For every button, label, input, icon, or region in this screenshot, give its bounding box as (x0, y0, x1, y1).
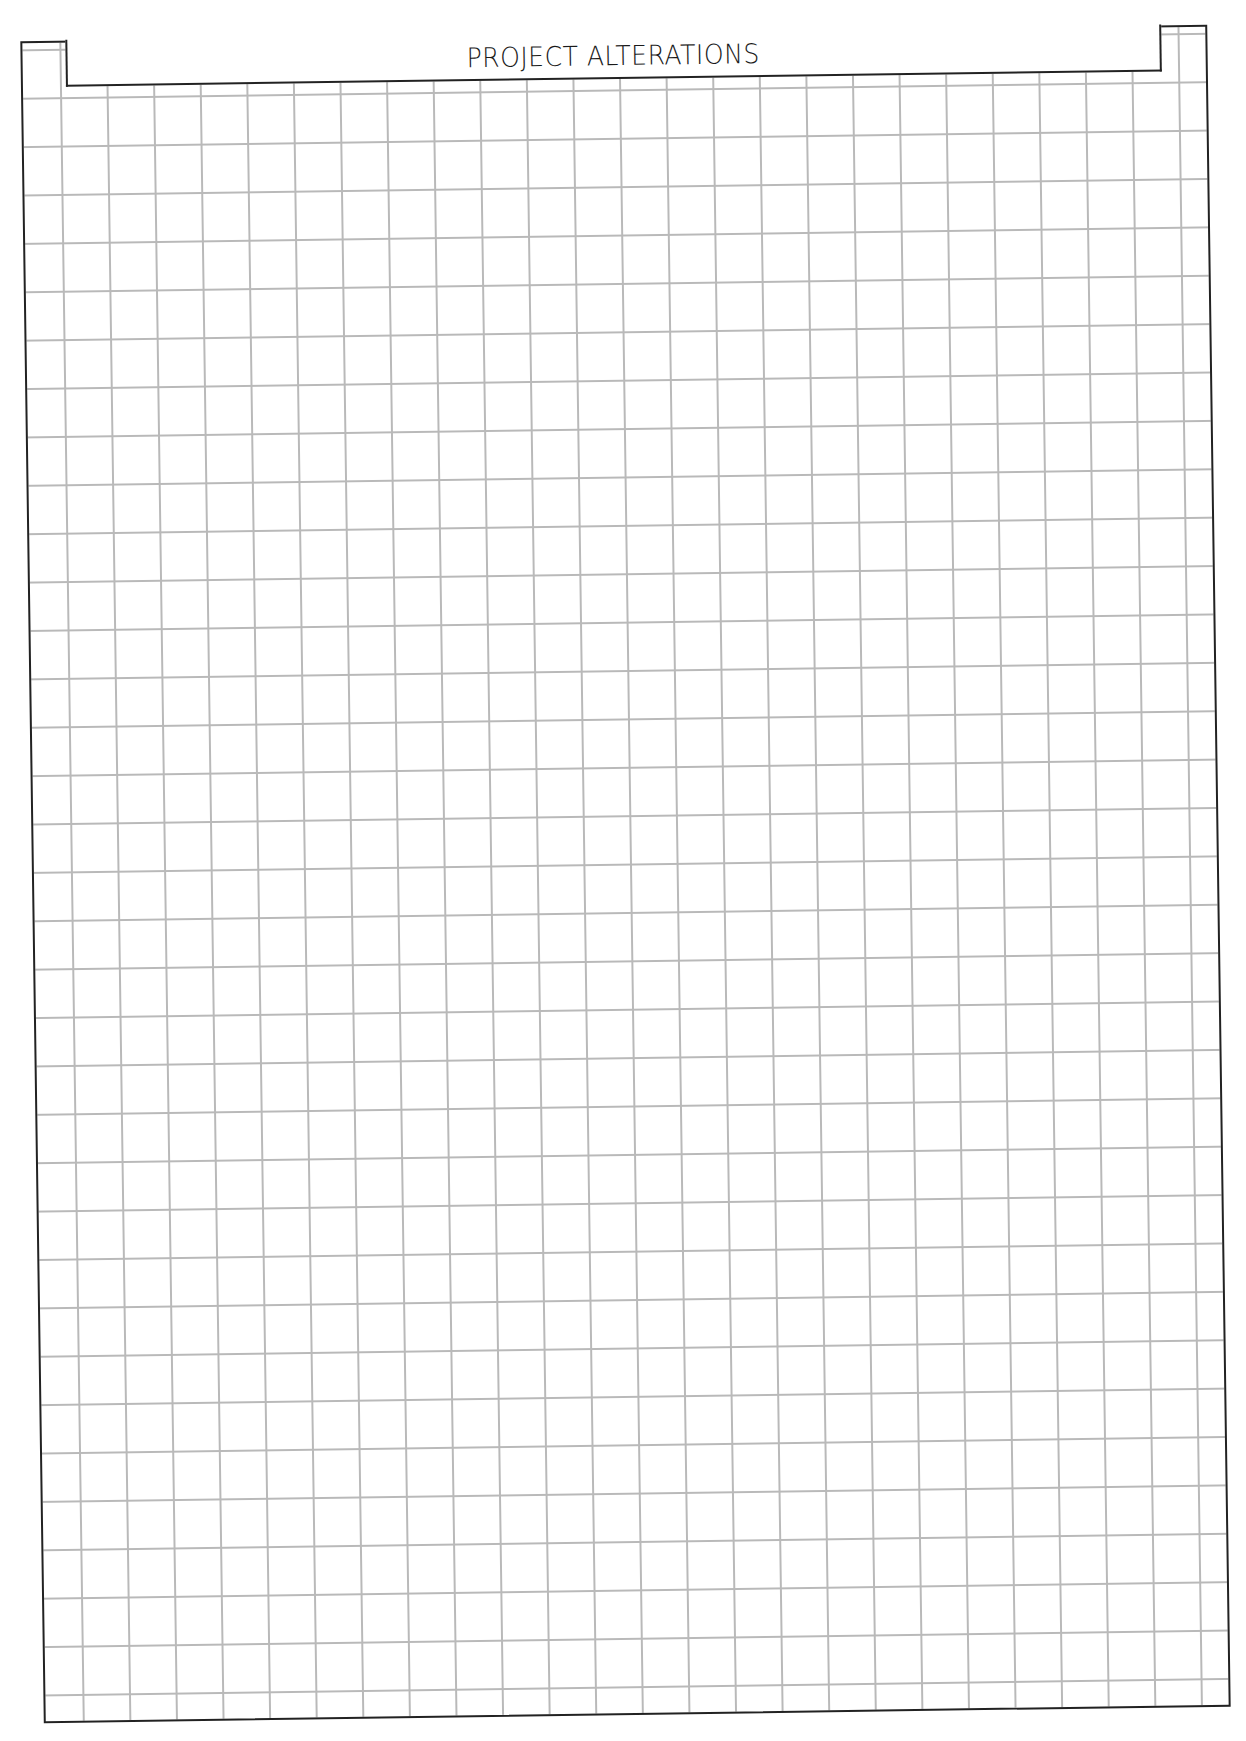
worksheet-page: PROJECT ALTERATIONS (20, 25, 1230, 1723)
grid-area (20, 25, 1230, 1723)
page-title: PROJECT ALTERATIONS (467, 36, 761, 73)
